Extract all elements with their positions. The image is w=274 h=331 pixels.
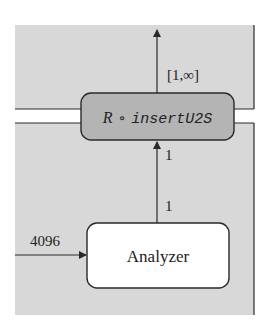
input-rate-label: 4096: [30, 233, 61, 249]
stream-diagram: [1,∞] R ∘ insertU2S 1 1 4096 Analyzer: [0, 0, 274, 331]
filter-node-insertU2S[interactable]: R ∘ insertU2S: [81, 93, 234, 140]
compose-operator-icon: ∘: [118, 110, 125, 126]
output-rate-label: [1,∞]: [167, 67, 199, 83]
filter-prefix: R: [102, 109, 113, 126]
svg-text:R ∘ insertU2S: R ∘ insertU2S: [102, 109, 213, 128]
analyzer-label: Analyzer: [127, 247, 190, 266]
filter-name: insertU2S: [131, 111, 212, 128]
analyzer-output-rate-label: 1: [165, 198, 173, 214]
analyzer-node[interactable]: Analyzer: [87, 223, 229, 288]
filter-input-rate-label: 1: [165, 147, 173, 163]
